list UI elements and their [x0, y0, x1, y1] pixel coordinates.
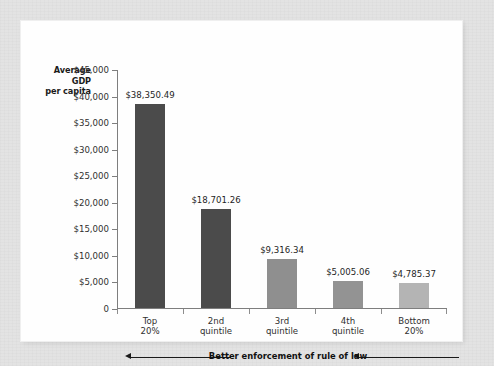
bar-value-label: $18,701.26: [191, 195, 240, 205]
bar: $4,785.37Bottom20%: [399, 283, 429, 308]
x-tick: [381, 309, 382, 314]
y-axis-title-line-2: GDP: [25, 76, 91, 87]
x-category-label-line-1: 2nd: [200, 316, 232, 326]
x-category-label-line-1: Bottom: [398, 316, 430, 326]
x-category-label-line-2: quintile: [332, 326, 364, 336]
y-tick: [112, 70, 117, 71]
bar-fill: [399, 283, 429, 308]
annotation-line-right: [359, 357, 459, 358]
bar: $5,005.064thquintile: [333, 281, 363, 308]
y-tick-label: $40,000: [73, 92, 109, 102]
x-category-label: 4thquintile: [332, 316, 364, 337]
y-tick: [112, 97, 117, 98]
x-category-label-line-1: 4th: [332, 316, 364, 326]
y-tick: [112, 282, 117, 283]
y-tick-label: $5,000: [79, 277, 109, 287]
bar-value-label: $9,316.34: [260, 245, 304, 255]
x-category-label-line-2: 20%: [140, 326, 159, 336]
annotation-label: Better enforcement of rule of law: [204, 351, 372, 361]
y-tick: [112, 123, 117, 124]
x-tick: [249, 309, 250, 314]
x-tick: [315, 309, 316, 314]
bar-value-label: $38,350.49: [125, 90, 174, 100]
y-tick-label: $20,000: [73, 198, 109, 208]
bar: $9,316.343rdquintile: [267, 259, 297, 308]
x-category-label-line-2: 20%: [398, 326, 430, 336]
y-axis-line: [117, 70, 118, 309]
bar-value-label: $4,785.37: [392, 269, 436, 279]
x-tick: [446, 309, 447, 314]
annotation-arrow-left-icon: [125, 353, 131, 359]
plot-area: $45,000$40,000$35,000$30,000$25,000$20,0…: [117, 70, 447, 309]
x-category-label: 3rdquintile: [266, 316, 298, 337]
y-tick-label: $15,000: [73, 224, 109, 234]
x-category-label: 2ndquintile: [200, 316, 232, 337]
y-tick-label: $10,000: [73, 251, 109, 261]
x-tick: [183, 309, 184, 314]
x-category-label-line-1: 3rd: [266, 316, 298, 326]
x-category-label: Bottom20%: [398, 316, 430, 337]
bar-fill: [333, 281, 363, 308]
bar-fill: [201, 209, 231, 308]
y-tick: [112, 229, 117, 230]
x-axis-annotation: Better enforcement of rule of law: [117, 351, 459, 365]
figure-page: Average GDP per capita $45,000$40,000$35…: [0, 0, 494, 366]
y-tick: [112, 203, 117, 204]
chart-panel: Average GDP per capita $45,000$40,000$35…: [21, 21, 462, 341]
y-tick: [112, 150, 117, 151]
bar: $18,701.262ndquintile: [201, 209, 231, 308]
x-axis-line: [117, 308, 447, 309]
y-tick-label: $30,000: [73, 145, 109, 155]
bar-fill: [135, 104, 165, 308]
x-category-label-line-2: quintile: [266, 326, 298, 336]
bar: $38,350.49Top20%: [135, 104, 165, 308]
x-category-label-line-1: Top: [140, 316, 159, 326]
y-tick-label: $45,000: [73, 65, 109, 75]
y-tick-label: $35,000: [73, 118, 109, 128]
y-tick: [112, 256, 117, 257]
x-tick: [117, 309, 118, 314]
x-category-label-line-2: quintile: [200, 326, 232, 336]
bar-fill: [267, 259, 297, 308]
y-tick-label: $25,000: [73, 171, 109, 181]
y-tick: [112, 176, 117, 177]
y-tick-label: 0: [104, 304, 109, 314]
bar-value-label: $5,005.06: [326, 267, 370, 277]
x-category-label: Top20%: [140, 316, 159, 337]
